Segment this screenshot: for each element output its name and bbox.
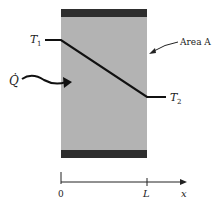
wall-bottom-edge	[61, 150, 147, 158]
t1-subscript: 1	[37, 40, 41, 48]
x-origin-label: 0	[58, 189, 64, 199]
wall-top-edge	[61, 9, 147, 17]
x-L-label: L	[142, 188, 150, 199]
wall-diagram: T 1 T 2 Area A Q̇ 0 L x	[0, 0, 219, 210]
area-arrowhead-icon	[149, 48, 156, 54]
heat-flow-arrow	[22, 76, 66, 84]
x-axis-arrowhead-icon	[180, 179, 187, 185]
area-label: Area A	[179, 37, 211, 47]
area-leader-line	[152, 42, 178, 52]
x-axis-label: x	[181, 188, 187, 199]
heat-flow-label: Q̇	[9, 73, 19, 88]
wall-slab	[61, 9, 147, 158]
t2-subscript: 2	[177, 98, 181, 106]
